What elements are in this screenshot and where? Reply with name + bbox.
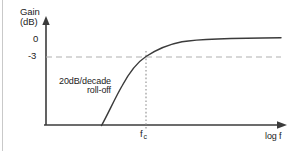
x-axis-arrowhead bbox=[277, 121, 287, 129]
y-axis-label-line2: (dB) bbox=[20, 17, 40, 27]
rolloff-annotation: 20dB/decade roll-off bbox=[59, 77, 111, 96]
y-axis bbox=[42, 16, 49, 125]
x-axis bbox=[44, 121, 287, 129]
frequency-response-figure: Gain (dB) 0 -3 20dB/decade roll-off fc l… bbox=[0, 0, 296, 151]
plot-canvas bbox=[0, 0, 296, 151]
gain-response-curve bbox=[102, 38, 282, 126]
cutoff-frequency-symbol: f bbox=[140, 128, 143, 139]
y-tick-label-0: 0 bbox=[33, 34, 38, 44]
y-tick-label-minus3: -3 bbox=[28, 51, 36, 61]
cutoff-frequency-subscript: c bbox=[144, 133, 147, 140]
y-axis-arrowhead bbox=[42, 16, 49, 25]
rolloff-annotation-line2: roll-off bbox=[59, 86, 111, 95]
y-axis-label: Gain (dB) bbox=[20, 7, 40, 27]
x-axis-label: log f bbox=[265, 132, 282, 141]
cutoff-frequency-label: fc bbox=[140, 129, 147, 140]
